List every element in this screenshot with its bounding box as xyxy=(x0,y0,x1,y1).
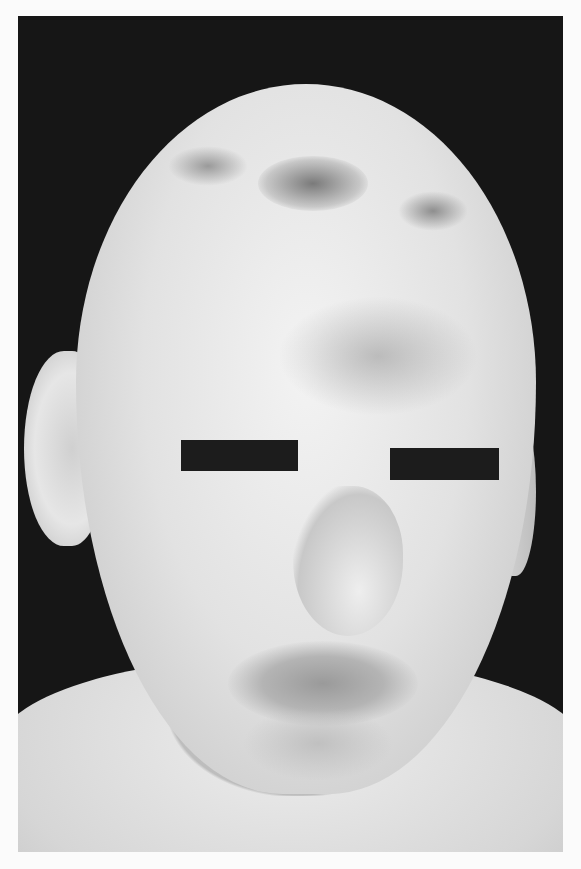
clinical-photo xyxy=(18,16,563,852)
nose xyxy=(293,486,403,636)
scalp-lesion xyxy=(168,146,248,186)
forehead-lesions xyxy=(278,296,478,416)
censor-bar-right-eye xyxy=(390,448,499,480)
scalp-lesion xyxy=(398,191,468,231)
censor-bar-left-eye xyxy=(181,440,298,471)
chin xyxy=(243,706,393,781)
scalp-lesion xyxy=(258,156,368,211)
